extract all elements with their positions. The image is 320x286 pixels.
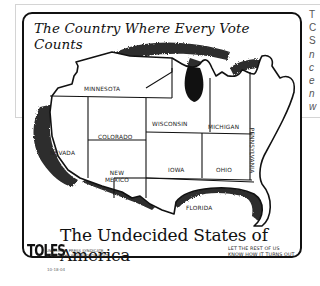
state-minnesota: MINNESOTA bbox=[84, 86, 120, 93]
cartoon-date: 10-18-04 bbox=[47, 267, 65, 272]
article-text-line: C bbox=[309, 21, 320, 34]
cartoon-bottom-title: The Undecided States of America bbox=[60, 225, 300, 265]
state-nevada: NEVADA bbox=[50, 150, 75, 157]
state-michigan: MICHIGAN bbox=[208, 124, 239, 131]
article-text-line: n bbox=[309, 48, 320, 61]
state-ohio: OHIO bbox=[216, 167, 232, 174]
political-cartoon: The Country Where Every Vote Counts MINN… bbox=[22, 12, 302, 258]
caption-line: KNOW HOW IT TURNS OUT bbox=[228, 252, 295, 258]
article-text-line: S bbox=[309, 34, 320, 47]
state-wisconsin: WISCONSIN bbox=[152, 121, 188, 128]
cartoon-title: The Country Where Every Vote Counts bbox=[34, 20, 300, 52]
state-new-mexico: NEW MEXICO bbox=[100, 170, 134, 184]
article-text-line: e bbox=[309, 74, 320, 87]
state-florida: FLORIDA bbox=[186, 205, 212, 212]
state-colorado: COLORADO bbox=[98, 134, 133, 141]
cartoon-caption: LET THE REST OF US KNOW HOW IT TURNS OUT bbox=[228, 246, 295, 258]
state-iowa: IOWA bbox=[168, 167, 184, 174]
state-pennsylvania: PENNSYLVANIA bbox=[248, 128, 255, 174]
article-text-line: c bbox=[309, 61, 320, 74]
article-text-line: w bbox=[309, 100, 320, 113]
page: T C S n c e n w bbox=[0, 0, 320, 286]
article-text-line: n bbox=[309, 87, 320, 100]
article-text-snippet: T C S n c e n w bbox=[309, 8, 320, 114]
copyright-credit: © 2004 THE WASHINGTON POST bbox=[46, 253, 108, 258]
article-text-line: T bbox=[309, 8, 320, 21]
